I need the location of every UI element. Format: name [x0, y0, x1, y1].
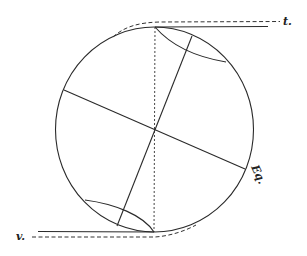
- label-t: t.: [283, 15, 292, 28]
- top-dashed-curve: [113, 22, 280, 38]
- lower-lens-arc: [85, 200, 154, 232]
- label-v: v.: [16, 230, 25, 243]
- top-tangent-line: [155, 27, 268, 28]
- label-eq: Eq.: [248, 162, 269, 187]
- equator-line: [64, 90, 245, 169]
- globe-diagram: t. v. Eq.: [0, 0, 307, 256]
- bottom-tangent-line: [38, 232, 154, 233]
- upper-lens-arc: [155, 27, 226, 62]
